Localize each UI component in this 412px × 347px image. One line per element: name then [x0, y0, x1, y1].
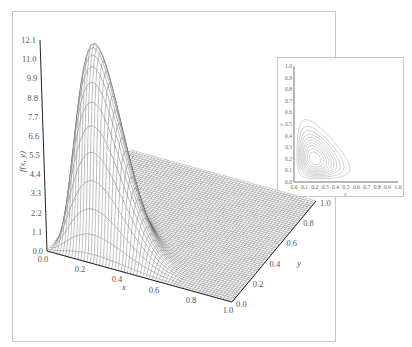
inset-y-tick-label: 0.4 — [285, 133, 292, 139]
inset-y-tick-label: 0.5 — [285, 121, 292, 127]
y-tick-label: 0.4 — [270, 259, 281, 269]
y-tick-label: 0.2 — [253, 279, 264, 289]
contour-line — [301, 134, 337, 174]
inset-x-tick-label: 0.6 — [353, 184, 360, 190]
contour-line — [297, 120, 350, 179]
inset-y-tick-label: 0.9 — [285, 75, 292, 81]
x-tick-label: 1.0 — [223, 305, 234, 315]
contour-line — [306, 146, 327, 169]
inset-y-tick-label: 0.1 — [285, 167, 292, 173]
y-axis-label: y — [296, 258, 301, 268]
z-tick-label: 9.9 — [27, 73, 38, 83]
z-tick-label: 12.1 — [21, 35, 36, 45]
inset-y-axis-label: y — [278, 123, 284, 127]
inset-y-tick-label: 0.3 — [285, 144, 292, 150]
z-tick-label: 3.3 — [30, 188, 41, 198]
y-tick-label: 0.0 — [236, 299, 247, 309]
inset-x-axis-label: x — [343, 191, 347, 197]
z-tick-label: 8.8 — [27, 93, 38, 103]
z-tick-label: 2.2 — [31, 208, 42, 218]
inset-x-tick-label: 1.0 — [395, 184, 402, 190]
inset-x-tick-label: 0.4 — [332, 184, 339, 190]
y-tick-label: 0.8 — [303, 218, 314, 228]
inset-x-tick-label: 0.8 — [374, 184, 381, 190]
inset-x-tick-label: 0.7 — [363, 184, 370, 190]
z-tick-label: 5.5 — [29, 150, 40, 160]
x-tick-label: 0.8 — [186, 295, 197, 305]
contour-inset: 0.00.10.20.30.40.50.60.70.80.91.00.00.10… — [285, 63, 402, 190]
surface-plot: 0.01.12.23.34.45.56.67.78.89.911.012.10.… — [0, 0, 412, 347]
inset-y-tick-label: 1.0 — [285, 63, 292, 69]
inset-x-tick-label: 0.5 — [343, 184, 350, 190]
x-axis-label: x — [121, 282, 126, 292]
z-tick-label: 6.6 — [29, 131, 40, 141]
inset-y-tick-label: 0.7 — [285, 98, 292, 104]
inset-x-tick-label: 0.2 — [311, 184, 318, 190]
inset-y-tick-label: 0.8 — [285, 86, 292, 92]
z-tick-label: 1.1 — [32, 227, 43, 237]
z-tick-label: 4.4 — [30, 169, 41, 179]
x-tick-label: 0.6 — [149, 285, 160, 295]
inset-y-tick-label: 0.2 — [285, 156, 292, 162]
y-tick-label: 1.0 — [320, 198, 331, 208]
inset-y-tick-label: 0.0 — [285, 179, 292, 185]
inset-x-tick-label: 0.9 — [384, 184, 391, 190]
z-axis-label: f(x, y) — [17, 151, 27, 172]
contour-line — [310, 152, 321, 165]
inset-x-tick-label: 0.1 — [301, 184, 308, 190]
inset-x-tick-label: 0.3 — [322, 184, 329, 190]
z-tick-label: 11.0 — [22, 54, 37, 64]
x-tick-label: 0.2 — [75, 264, 86, 274]
y-tick-label: 0.6 — [286, 238, 297, 248]
x-tick-label: 0.0 — [38, 254, 49, 264]
z-tick-label: 7.7 — [28, 112, 39, 122]
contour-line — [298, 126, 344, 177]
inset-y-tick-label: 0.6 — [285, 109, 292, 115]
